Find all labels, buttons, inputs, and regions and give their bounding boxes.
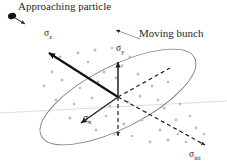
figure-canvas: Approaching particle Moving bunch σz σy …: [0, 0, 227, 167]
sigma-int-label: σint: [189, 150, 201, 161]
dashed-upper-right-axis: [118, 68, 170, 97]
sigma-x-label: σx: [83, 114, 91, 125]
sigma-z-axis-arrow: [49, 53, 118, 97]
approaching-particle-velocity-arrow: [15, 18, 25, 24]
approaching-particle-label: Approaching particle: [18, 1, 111, 12]
approaching-particle-dot: [7, 12, 17, 20]
schematic-drawing: [0, 0, 227, 167]
sigma-z-label: σz: [44, 29, 52, 40]
sigma-int-subscript: int: [194, 154, 201, 161]
sigma-z-subscript: z: [49, 33, 52, 40]
sigma-y-subscript: y: [121, 48, 124, 55]
approaching-particle: [7, 12, 25, 24]
moving-bunch-label: Moving bunch: [139, 28, 203, 39]
sigma-x-subscript: x: [88, 118, 91, 125]
reference-ground-line: [0, 101, 227, 113]
sigma-y-label: σy: [116, 44, 124, 55]
moving-bunch-leader-line: [116, 30, 140, 39]
